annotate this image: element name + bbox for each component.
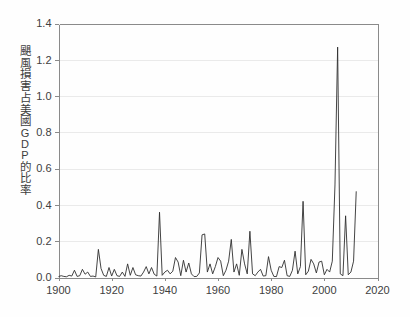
y-axis-label-char: 率 xyxy=(20,185,31,197)
gridlines-group xyxy=(59,25,378,242)
y-tick-label: 0.2 xyxy=(36,235,51,247)
tickmarks-group xyxy=(55,25,379,282)
y-axis-label: 颶風損害占美國GDP的比率 xyxy=(14,46,36,276)
y-tick-label: 0.4 xyxy=(36,199,51,211)
y-tick-label: 1.4 xyxy=(36,17,51,29)
hurricane-damage-gdp-chart: 颶風損害占美國GDP的比率 0.00.20.40.60.81.01.21.4 1… xyxy=(0,0,410,317)
y-tick-label: 0.0 xyxy=(36,271,51,283)
x-tick-labels-group: 1900192019401960198020002020 xyxy=(46,284,389,296)
axes-group xyxy=(60,25,379,279)
y-tick-label: 1.2 xyxy=(36,54,51,66)
y-tick-label: 1.0 xyxy=(36,90,51,102)
y-tick-label: 0.6 xyxy=(36,162,51,174)
x-tick-label: 1940 xyxy=(153,284,177,296)
x-tick-label: 2000 xyxy=(312,284,336,296)
data-line-hurricane-damage xyxy=(59,47,357,277)
x-tick-label: 1900 xyxy=(46,284,70,296)
y-tick-labels-group: 0.00.20.40.60.81.01.21.4 xyxy=(36,17,51,283)
y-tick-label: 0.8 xyxy=(36,126,51,138)
x-tick-label: 1980 xyxy=(259,284,283,296)
x-tick-label: 2020 xyxy=(365,284,389,296)
x-tick-label: 1920 xyxy=(99,284,123,296)
chart-canvas: 0.00.20.40.60.81.01.21.4 190019201940196… xyxy=(0,0,410,317)
x-tick-label: 1960 xyxy=(206,284,230,296)
data-series-group xyxy=(59,47,357,277)
